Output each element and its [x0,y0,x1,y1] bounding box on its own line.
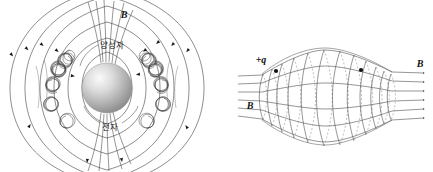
particle-marker-right [359,68,363,72]
right-field-label: B [416,58,424,69]
left-field-label: B [120,9,128,20]
charge-label: +q [256,54,267,65]
earth-sphere [82,63,132,113]
particle-marker-left [274,69,278,73]
proton-label: 양성자 [100,40,124,50]
physics-figure: B 양성자 전자 [0,0,433,172]
electron-label: 전자 [102,122,118,132]
left-field-label-bottle: B [246,100,254,111]
figure-background [0,0,433,172]
